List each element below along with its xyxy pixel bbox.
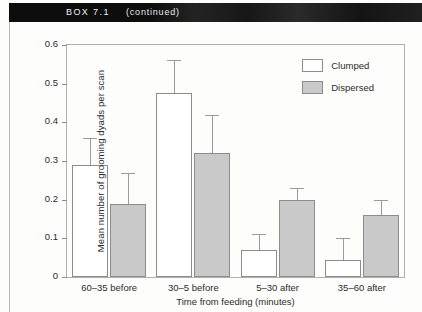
y-axis-tick-label: 0.6 [45, 38, 58, 49]
box-title: BOX 7.1 [66, 7, 110, 17]
error-bar-cap [252, 234, 266, 235]
bar-clumped [156, 93, 192, 277]
error-bar-line [343, 238, 344, 259]
y-axis-label: Mean number of grooming dyads per scan [95, 70, 106, 252]
legend-label-dispersed: Dispersed [331, 82, 374, 93]
bar-dispersed [194, 153, 230, 277]
y-axis-tick-label: 0.5 [45, 77, 58, 88]
error-bar-cap [336, 238, 350, 239]
error-bar-cap [374, 200, 388, 201]
error-bar-cap [121, 173, 135, 174]
y-axis-tick [62, 200, 67, 201]
y-axis-tick-label: 0.1 [45, 231, 58, 242]
error-bar-line [297, 188, 298, 200]
error-bar-cap [205, 115, 219, 116]
page: BOX 7.1 (continued) Mean number of groom… [0, 0, 422, 312]
y-axis-tick-label: 0.3 [45, 154, 58, 165]
y-axis-tick-label: 0 [53, 270, 58, 281]
bar-chart: Mean number of grooming dyads per scan T… [66, 44, 405, 278]
bar-clumped [325, 260, 361, 277]
error-bar-cap [167, 60, 181, 61]
y-axis-tick-label: 0.2 [45, 193, 58, 204]
x-axis-tick-label: 60–35 before [81, 282, 137, 293]
x-axis-tick-label: 5–30 after [256, 282, 299, 293]
error-bar-line [90, 138, 91, 165]
y-axis-tick [62, 122, 67, 123]
error-bar-line [259, 234, 260, 249]
bar-clumped [241, 250, 277, 277]
box-header-bar: BOX 7.1 (continued) [9, 3, 422, 22]
x-axis-tick-label: 35–60 after [338, 282, 386, 293]
legend-swatch-dispersed [302, 81, 323, 94]
legend-item-clumped: Clumped [302, 59, 374, 72]
y-axis-tick [62, 277, 67, 278]
error-bar-line [174, 60, 175, 93]
x-axis-label: Time from feeding (minutes) [176, 296, 294, 307]
x-axis-tick-label: 30–5 before [168, 282, 219, 293]
legend-item-dispersed: Dispersed [302, 81, 374, 94]
y-axis-tick [62, 45, 67, 46]
bar-dispersed [363, 215, 399, 277]
y-axis-tick [62, 238, 67, 239]
y-axis-tick [62, 84, 67, 85]
error-bar-line [128, 173, 129, 204]
error-bar-cap [290, 188, 304, 189]
legend-label-clumped: Clumped [331, 60, 369, 71]
box-subtitle: (continued) [126, 7, 180, 17]
bar-dispersed [279, 200, 315, 277]
page-left-rule [9, 22, 10, 312]
bar-dispersed [110, 204, 146, 277]
chart-legend: Clumped Dispersed [302, 59, 374, 103]
error-bar-line [212, 115, 213, 154]
error-bar-line [381, 200, 382, 215]
y-axis-tick-label: 0.4 [45, 115, 58, 126]
legend-swatch-clumped [302, 59, 323, 72]
y-axis-tick [62, 161, 67, 162]
